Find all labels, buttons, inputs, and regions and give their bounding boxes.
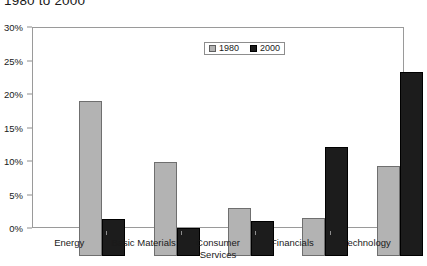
bars-layer bbox=[65, 55, 427, 256]
legend-entry-2000: 2000 bbox=[250, 43, 280, 53]
y-axis: 0%5%10%15%20%25%30% bbox=[0, 27, 28, 228]
y-axis-tick-label: 20% bbox=[4, 89, 23, 100]
x-axis-tick-mark bbox=[181, 231, 182, 235]
x-axis-category-label-line: Basic Materials bbox=[111, 237, 175, 248]
legend-label: 2000 bbox=[260, 43, 280, 53]
y-axis-tick-label: 5% bbox=[9, 189, 23, 200]
x-axis-category-label-line: Financials bbox=[271, 237, 314, 248]
legend-swatch-icon bbox=[209, 45, 216, 52]
x-axis: EnergyBasic MaterialsConsumerServicesFin… bbox=[32, 231, 404, 266]
y-axis-tick-label: 0% bbox=[9, 223, 23, 234]
x-axis-category-label: Basic Materials bbox=[111, 237, 175, 249]
legend-label: 1980 bbox=[219, 43, 239, 53]
y-axis-tick-label: 10% bbox=[4, 156, 23, 167]
x-axis-tick-mark bbox=[106, 231, 107, 235]
chart-legend: 19802000 bbox=[204, 42, 285, 55]
chart-title: 1980 to 2000 bbox=[4, 0, 85, 8]
legend-entry-1980: 1980 bbox=[209, 43, 239, 53]
plot-area bbox=[32, 27, 404, 228]
bar-2000-technology bbox=[400, 72, 423, 256]
x-axis-category-label: ConsumerServices bbox=[196, 237, 240, 261]
x-axis-category-label: Energy bbox=[54, 237, 84, 249]
x-axis-category-label: Financials bbox=[271, 237, 314, 249]
x-axis-tick-mark bbox=[330, 231, 331, 235]
x-axis-category-label-line: Consumer bbox=[196, 237, 240, 248]
x-axis-category-label-line: Energy bbox=[54, 237, 84, 248]
y-axis-tick-label: 30% bbox=[4, 22, 23, 33]
x-axis-tick-mark bbox=[255, 231, 256, 235]
x-axis-category-label-line: Technology bbox=[343, 237, 391, 248]
x-axis-category-label-line: Services bbox=[196, 249, 240, 261]
x-axis-category-label: Technology bbox=[343, 237, 391, 249]
legend-swatch-icon bbox=[250, 45, 257, 52]
y-axis-tick-label: 25% bbox=[4, 55, 23, 66]
y-axis-tick-label: 15% bbox=[4, 122, 23, 133]
